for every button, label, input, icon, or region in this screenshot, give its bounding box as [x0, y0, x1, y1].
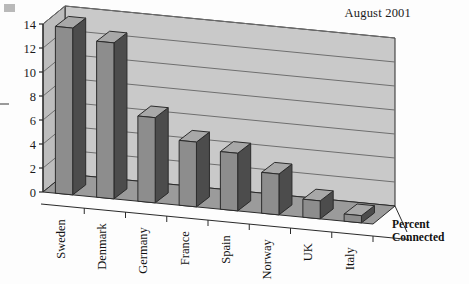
x-axis-category-label: Denmark: [95, 222, 109, 269]
bar-front: [55, 26, 72, 194]
bar-side: [238, 143, 251, 211]
bar-side: [73, 18, 86, 195]
x-axis-category-label: Sweden: [54, 218, 68, 258]
y-axis-tick-label: 0: [30, 186, 36, 200]
y-axis-tick-label: 2: [30, 162, 36, 176]
bar-norway: [262, 162, 292, 214]
y-axis-tick-label: 8: [30, 90, 36, 104]
y-axis-tick-label: 6: [30, 114, 36, 128]
bar-front: [303, 199, 320, 219]
x-axis-category-label: Germany: [136, 226, 150, 273]
y-axis-tick-label: 12: [24, 42, 37, 56]
floor-right-edge: [395, 206, 407, 232]
bar-front: [97, 41, 114, 199]
bar-germany: [138, 106, 168, 203]
bar-sweden: [55, 16, 85, 194]
x-axis-category-label: UK: [301, 243, 315, 261]
y-axis-tick-label: 14: [24, 18, 37, 32]
bar-denmark: [97, 31, 127, 199]
y-axis-tick-label: 4: [30, 138, 37, 152]
x-axis-category-label: France: [178, 231, 192, 265]
bar-side: [114, 33, 127, 199]
bar-side: [155, 108, 168, 203]
bar-side: [196, 132, 209, 207]
bar-spain: [220, 142, 250, 211]
bar-france: [179, 130, 209, 206]
x-axis-category-label: Spain: [219, 234, 233, 263]
bar-chart-plot: 02468101214SwedenDenmarkGermanyFranceSpa…: [0, 0, 469, 284]
bar-front: [344, 214, 361, 223]
y-axis-tick-label: 10: [24, 66, 37, 80]
bar-front: [179, 140, 196, 206]
chart-page: August 2001 Percent Connected 0246810121…: [0, 0, 469, 284]
bar-front: [262, 172, 279, 214]
x-axis-category-label: Italy: [343, 246, 357, 270]
x-axis-category-label: Norway: [260, 238, 274, 279]
bar-front: [138, 116, 155, 203]
bar-front: [220, 152, 237, 211]
